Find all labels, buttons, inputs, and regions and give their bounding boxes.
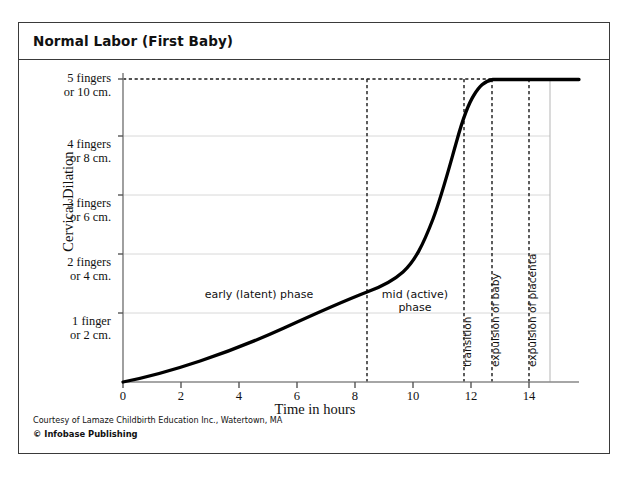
annotation-mid-active-phase-line1: mid (active): [371, 288, 459, 301]
y-tick-label-8cm: 4 fingers or 8 cm.: [35, 138, 111, 165]
annotation-expulsion-of-placenta: expulsion of placenta: [526, 254, 538, 367]
y-tick-label-2cm: 1 finger or 2 cm.: [35, 315, 111, 342]
y-tick-label-6cm: 3 fingers or 6 cm.: [35, 197, 111, 224]
figure-panel: Normal Labor (First Baby): [18, 22, 610, 454]
dilation-curve: [123, 80, 579, 383]
x-axis: [123, 382, 579, 388]
y-tick-label-4cm: 2 fingers or 4 cm.: [35, 256, 111, 283]
credit-line: Courtesy of Lamaze Childbirth Education …: [33, 415, 282, 425]
y-axis: [118, 73, 123, 382]
plot-area: Cervical Dilation 1 finger or 2 cm. 2 fi…: [19, 23, 611, 455]
annotation-expulsion-of-baby: expulsion of baby: [489, 273, 501, 367]
annotation-early-latent-phase: early (latent) phase: [179, 288, 339, 301]
copyright-line: © Infobase Publishing: [33, 429, 138, 439]
annotation-transition: transition: [461, 317, 473, 367]
gridlines-horizontal: [123, 136, 550, 313]
annotation-mid-active-phase-line2: phase: [371, 301, 459, 314]
y-tick-label-10cm: 5 fingers or 10 cm.: [35, 72, 111, 99]
